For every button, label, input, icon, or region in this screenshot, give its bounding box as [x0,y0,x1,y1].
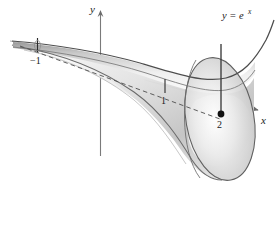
curve-equation-exponent: x [247,7,252,16]
tick-label-one: 1 [161,95,166,106]
tick-label-two: 2 [217,119,222,130]
solid-of-revolution-figure: y x −1 [0,0,280,228]
svg-text:y = e: y = e [221,10,244,21]
point-marker [218,111,225,118]
figure-canvas: y x −1 [0,0,280,228]
y-axis-label: y [89,3,95,15]
curve-equation-label: y = e x [221,7,252,21]
y-axis [98,10,104,156]
x-axis-label: x [260,114,266,126]
tick-label-minus-one: −1 [30,55,41,66]
